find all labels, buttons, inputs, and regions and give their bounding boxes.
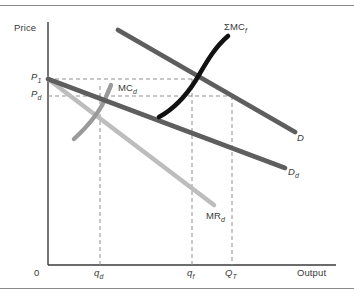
y-tick-p1: P1 (31, 72, 41, 84)
curve-label-mc-d: MCd (118, 83, 137, 95)
x-tick-qt: QT (225, 268, 237, 280)
curve-label-market-demand: D (297, 133, 304, 143)
y-tick-pd: Pd (31, 89, 41, 101)
y-axis-label: Price (14, 23, 36, 33)
origin-label: 0 (34, 268, 39, 278)
curve-sum-mc-f (159, 36, 228, 117)
curve-mr-d (48, 79, 214, 205)
curve-label-sum-mc-f: ΣMCf (224, 22, 247, 34)
curve-label-residual-demand: Dd (288, 167, 299, 179)
figure-canvas: Price Output 0 P1 Pd qd qf QT ΣMCf MCd D… (0, 0, 354, 296)
x-axis-label: Output (297, 268, 326, 278)
curve-residual-demand (48, 79, 285, 168)
chart-svg (0, 0, 354, 296)
x-tick-qf: qf (187, 268, 194, 280)
x-tick-qd: qd (94, 268, 103, 280)
curve-label-mr-d: MRd (206, 211, 225, 223)
